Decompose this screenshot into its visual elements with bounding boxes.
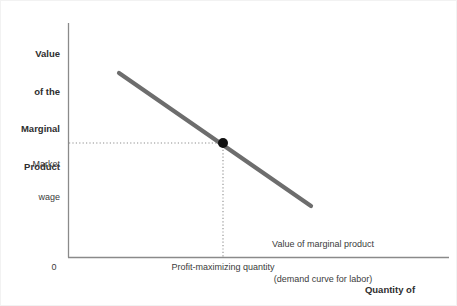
market-wage-label-line-1: Market [1,159,60,170]
curve-annotation-line-1: Value of marginal product [249,239,397,251]
market-wage-label: Market wage [1,137,60,225]
value-of-marginal-product-curve [119,73,311,206]
y-axis-title-line-3: Marginal [1,123,60,136]
curve-annotation: Value of marginal product (demand curve … [249,216,397,306]
curve-annotation-line-2: (demand curve for labor) [249,274,397,286]
y-axis-title-line-2: of the [1,86,60,99]
y-axis-title-line-1: Value [1,48,60,61]
market-wage-label-line-2: wage [1,192,60,203]
equilibrium-point-marker [218,138,228,148]
value-of-marginal-product-chart: Value of the Marginal Product Market wag… [0,0,457,306]
origin-label: 0 [47,262,61,273]
